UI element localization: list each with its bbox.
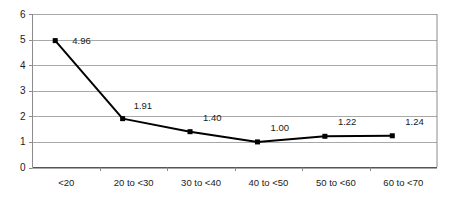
data-point-marker <box>188 129 193 134</box>
y-tick-label: 3 <box>20 85 26 96</box>
data-point-label: 1.22 <box>338 116 357 127</box>
line-chart: 6543210 4.961.911.401.001.221.24 <2020 t… <box>0 0 453 201</box>
y-tick-label: 5 <box>20 34 26 45</box>
x-category-label: 30 to <40 <box>181 177 221 188</box>
data-point-marker <box>255 139 260 144</box>
data-point-marker <box>322 134 327 139</box>
y-tick-label: 0 <box>20 162 26 173</box>
data-point-label: 4.96 <box>72 35 91 46</box>
data-point-marker <box>120 116 125 121</box>
chart-canvas: 6543210 4.961.911.401.001.221.24 <2020 t… <box>0 0 453 201</box>
data-point-label: 1.40 <box>203 112 222 123</box>
y-tick-label: 6 <box>20 9 26 20</box>
x-category-label: 60 to <70 <box>383 177 423 188</box>
data-point-marker <box>53 38 58 43</box>
y-tick-label: 2 <box>20 111 26 122</box>
y-tick-label: 1 <box>20 136 26 147</box>
x-category-label: 50 to <60 <box>316 177 356 188</box>
x-category-label: <20 <box>58 177 74 188</box>
data-point-label: 1.00 <box>270 122 289 133</box>
y-tick-label: 4 <box>20 60 26 71</box>
data-point-label: 1.24 <box>405 116 424 127</box>
x-category-label: 20 to <30 <box>114 177 154 188</box>
chart-background <box>0 0 453 201</box>
data-point-label: 1.91 <box>134 100 153 111</box>
data-point-marker <box>390 133 395 138</box>
x-category-label: 40 to <50 <box>249 177 289 188</box>
